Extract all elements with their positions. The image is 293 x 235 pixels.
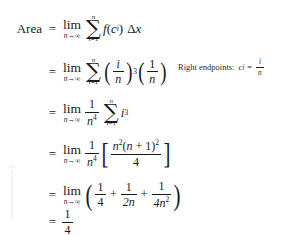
- bracket-open: [: [101, 140, 108, 166]
- summand-expression: ( i n )3 ( 1 n ): [103, 58, 167, 86]
- equals-sign: =: [46, 105, 59, 121]
- limit-operator: lim n→∞: [63, 61, 81, 83]
- equals-sign: =: [46, 146, 59, 162]
- annotation-equals: =: [244, 62, 255, 72]
- term-one-quarter: 1 4: [95, 181, 106, 209]
- final-result-fraction: 1 4: [62, 208, 73, 235]
- bracket-close: ]: [164, 140, 171, 166]
- equals-sign: =: [46, 187, 59, 203]
- summand-expression: i3: [121, 105, 128, 121]
- limit-operator: lim n→∞: [63, 18, 81, 40]
- equals-sign: =: [46, 214, 59, 230]
- equals-sign: =: [46, 64, 59, 80]
- annotation-label: Right endpoints:: [178, 62, 234, 72]
- term-one-over-2n: 1 2n: [121, 181, 137, 209]
- limit-subscript: n→∞: [64, 198, 81, 206]
- paren-open: (: [86, 181, 93, 208]
- coefficient-fraction: 1 n4: [85, 98, 99, 127]
- annotation-fraction: i n: [256, 58, 264, 77]
- area-label: Area: [4, 21, 46, 37]
- summand-expression: f(ci) Δx: [103, 21, 141, 37]
- formula-denominator: 4: [131, 156, 141, 169]
- equation-line-5: = lim n→∞ ( 1 4 + 1 2n + 1 4n2 ): [4, 180, 182, 209]
- summation-operator: n ∑ i=1: [86, 57, 101, 86]
- formula-numerator: n2(n+1)2: [111, 139, 161, 153]
- equation-line-1: Area = lim n→∞ n ∑ i=1 f(ci) Δx: [4, 14, 141, 43]
- paren-open: (: [138, 60, 144, 83]
- paren-close: ): [174, 181, 181, 208]
- exponent: 3: [133, 67, 137, 76]
- limit-subscript: n→∞: [64, 116, 81, 124]
- plus-sign: +: [138, 187, 151, 202]
- limit-subscript: n→∞: [64, 157, 81, 165]
- fraction-i-over-n: i n: [113, 58, 124, 86]
- fraction-1-over-n: 1 n: [147, 58, 158, 86]
- equation-line-4: = lim n→∞ 1 n4 [ n2(n+1)2 4 ]: [4, 139, 172, 168]
- limit-operator: lim n→∞: [63, 102, 81, 124]
- plus-sign: +: [107, 187, 120, 202]
- limit-operator: lim n→∞: [63, 184, 81, 206]
- equation-line-2: = lim n→∞ n ∑ i=1 ( i n )3 ( 1 n ): [4, 57, 167, 86]
- summation-operator: n ∑ i=1: [104, 98, 119, 127]
- limit-subscript: n→∞: [64, 75, 81, 83]
- limit-subscript: n→∞: [64, 32, 81, 40]
- math-derivation: Area = lim n→∞ n ∑ i=1 f(ci) Δx = lim n→…: [0, 0, 293, 235]
- equals-sign: =: [46, 21, 59, 37]
- limit-operator: lim n→∞: [63, 143, 81, 165]
- paren-open: (: [104, 60, 110, 83]
- coefficient-fraction: 1 n4: [85, 139, 99, 168]
- right-endpoints-annotation: Right endpoints: ci = i n: [178, 58, 265, 77]
- paren-close: ): [126, 60, 132, 83]
- summation-operator: n ∑ i=1: [86, 14, 101, 43]
- equation-line-3: = lim n→∞ 1 n4 n ∑ i=1 i3: [4, 98, 128, 127]
- delta-symbol: Δ: [127, 21, 135, 37]
- equation-line-6: = 1 4: [4, 208, 74, 235]
- term-one-over-4n2: 1 4n2: [152, 180, 172, 209]
- paren-close: ): [160, 60, 166, 83]
- sum-formula-fraction: n2(n+1)2 4: [111, 139, 161, 168]
